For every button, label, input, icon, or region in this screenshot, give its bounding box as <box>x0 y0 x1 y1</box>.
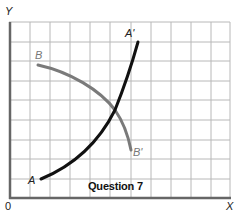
label-a: A <box>28 174 35 186</box>
label-a-prime: A' <box>125 27 134 39</box>
label-b: B <box>35 49 42 61</box>
origin-label: 0 <box>5 200 11 212</box>
y-axis-label: Y <box>5 5 12 17</box>
label-b-prime: B' <box>133 146 142 158</box>
x-axis-label: X <box>226 200 233 212</box>
chart-caption: Question 7 <box>88 180 143 192</box>
